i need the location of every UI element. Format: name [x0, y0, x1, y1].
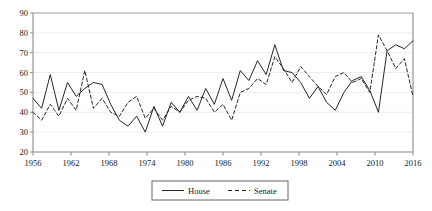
ytick-label-80: 80: [20, 28, 29, 38]
xtick-label-2010: 2010: [367, 158, 384, 168]
xtick-label-1998: 1998: [291, 158, 308, 168]
ytick-label-70: 70: [20, 48, 29, 58]
line-chart: 2030405060708090195619621968197419801986…: [0, 0, 432, 211]
series-line-senate: [33, 35, 413, 120]
legend-label-house: House: [188, 186, 210, 196]
ytick-label-50: 50: [20, 87, 29, 97]
xtick-label-2004: 2004: [329, 158, 347, 168]
legend-label-senate: Senate: [254, 186, 277, 196]
ytick-label-30: 30: [20, 127, 29, 137]
ytick-label-60: 60: [20, 68, 29, 78]
xtick-label-1962: 1962: [63, 158, 80, 168]
xtick-label-2016: 2016: [405, 158, 422, 168]
ytick-label-40: 40: [20, 107, 29, 117]
xtick-label-1974: 1974: [139, 158, 157, 168]
series-line-house: [33, 41, 413, 132]
xtick-label-1992: 1992: [253, 158, 270, 168]
xtick-label-1956: 1956: [25, 158, 42, 168]
xtick-label-1986: 1986: [215, 158, 232, 168]
ytick-label-90: 90: [20, 8, 29, 18]
xtick-label-1968: 1968: [101, 158, 118, 168]
xtick-label-1980: 1980: [177, 158, 194, 168]
ytick-label-20: 20: [20, 147, 29, 157]
chart-container: 2030405060708090195619621968197419801986…: [0, 0, 432, 211]
